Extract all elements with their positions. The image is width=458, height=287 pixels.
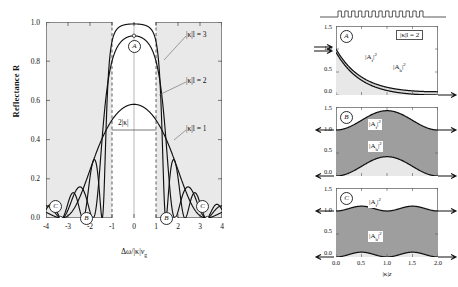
x-tick-0: 0 [124, 222, 144, 231]
sub-x-axis-label: |κ|z [336, 270, 438, 278]
x-tick-2: 2 [168, 222, 188, 231]
field-arrow [438, 205, 458, 217]
curve-label-kl1: |κ|l = 1 [186, 124, 207, 133]
field-arrow [314, 43, 334, 55]
panel-tag-A: A [340, 30, 353, 43]
marker-B-left: B [80, 212, 93, 225]
panel-A-backward-label: |Ab|2 [392, 62, 407, 73]
sub-x-tick-1.5: 1.5 [403, 259, 421, 266]
reflectance-spectrum-panel: Reflectance R 1.0 0.8 0.6 0.4 0. [0, 0, 292, 287]
panel-A-forward-label: |Af|2 [364, 52, 378, 63]
panel-B-backward-label: |Ab|2 [368, 141, 383, 152]
square-wave-grating-icon [320, 8, 446, 22]
sub-x-tick-1.0: 1.0 [378, 259, 396, 266]
x-tick-4: 4 [212, 222, 232, 231]
leader-line-kl1 [174, 130, 186, 140]
x-axis-label-delta: Δω/|κ| [121, 247, 141, 256]
sub-x-tick-0.5: 0.5 [352, 259, 370, 266]
x-axis-label-vg-sub: g [144, 252, 147, 258]
marker-C-right: C [196, 200, 209, 213]
panel-A-y-tick-1.5: 1.5 [310, 23, 332, 30]
curve-label-kl3: |κ|l = 3 [186, 30, 207, 39]
panel-tag-B: B [340, 111, 353, 124]
field-arrow [314, 251, 334, 263]
panel-C-y-tick-1.5: 1.5 [310, 185, 332, 192]
field-distribution-panels: A |κ|l = 2 |Af|2 |Ab|2 1.5 1.0 0.5 0.0 B… [292, 0, 457, 287]
panel-B-forward-label: |Af|2 [368, 119, 382, 130]
y-tick-0.4: 0.4 [10, 135, 40, 144]
panel-B-y-tick-1.5: 1.5 [310, 104, 332, 111]
y-tick-0.0: 0.0 [10, 213, 40, 222]
x-tick--3: -3 [58, 222, 78, 231]
field-arrow [438, 124, 458, 136]
leader-line-kl3 [164, 36, 186, 60]
field-arrow [438, 170, 458, 182]
panel-C-forward-label: |Af|2 [368, 197, 382, 208]
panel-B-y-tick-0.5: 0.5 [310, 146, 332, 153]
field-arrow [314, 205, 334, 217]
panel-A-y-tick-0.5: 0.5 [310, 65, 332, 72]
y-tick-1.0: 1.0 [10, 18, 40, 27]
bandwidth-annotation: 2|κ| [118, 118, 129, 127]
field-arrow [314, 170, 334, 182]
panel-A-y-tick-0.0: 0.0 [310, 87, 332, 94]
curve-label-kl2: |κ|l = 2 [186, 76, 207, 85]
panel-tag-C: C [340, 192, 353, 205]
panel-A-box-label: |κ|l = 2 [396, 30, 423, 40]
x-tick--1: -1 [102, 222, 122, 231]
field-arrow [438, 89, 458, 101]
x-tick-3: 3 [190, 222, 210, 231]
y-tick-0.8: 0.8 [10, 57, 40, 66]
marker-B-right: B [160, 212, 173, 225]
marker-C-left: C [49, 200, 62, 213]
panel-C-y-tick-0.5: 0.5 [310, 227, 332, 234]
leader-line-kl2 [159, 82, 186, 95]
y-tick-0.6: 0.6 [10, 96, 40, 105]
x-tick--4: -4 [36, 222, 56, 231]
x-axis-label: Δω/|κ|vg [46, 247, 222, 258]
marker-A: A [128, 40, 141, 53]
field-arrow [438, 251, 458, 263]
y-tick-0.2: 0.2 [10, 174, 40, 183]
field-arrow [314, 124, 334, 136]
panel-C-backward-label: |Ab|2 [368, 231, 383, 242]
y-axis-label: Reflectance R [11, 31, 21, 151]
sub-x-axis-label-z: z [389, 270, 392, 278]
